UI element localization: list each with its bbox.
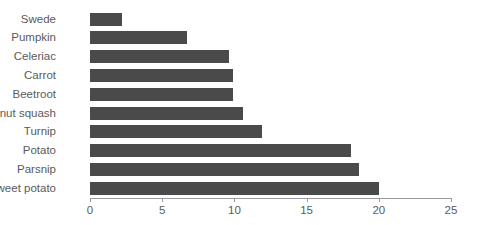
x-axis-tick-label: 15: [287, 203, 327, 218]
x-axis-tick-mark: [234, 198, 235, 202]
x-axis-tick-label: 25: [431, 203, 471, 218]
x-axis-tick-mark: [307, 198, 308, 202]
category-label: Butternut squash: [0, 105, 56, 122]
bar: [90, 69, 233, 82]
bar: [90, 31, 187, 44]
bar: [90, 163, 359, 176]
bar: [90, 50, 229, 63]
bar-row: Carrot: [90, 66, 451, 85]
category-label: Sweet potato: [0, 180, 56, 197]
x-axis-tick-mark: [90, 198, 91, 202]
x-axis-line: [90, 198, 451, 199]
x-axis-tick-mark: [451, 198, 452, 202]
bar-row: Sweet potato: [90, 179, 451, 198]
bar-chart: SwedePumpkinCeleriacCarrotBeetrootButter…: [0, 0, 480, 225]
category-label: Beetroot: [0, 86, 56, 103]
bar: [90, 144, 351, 157]
bar: [90, 125, 262, 138]
bar: [90, 107, 243, 120]
bar-row: Swede: [90, 10, 451, 29]
category-label: Celeriac: [0, 48, 56, 65]
category-label: Potato: [0, 142, 56, 159]
bar-row: Parsnip: [90, 160, 451, 179]
x-axis-tick-mark: [162, 198, 163, 202]
bar: [90, 13, 122, 26]
category-label: Pumpkin: [0, 29, 56, 46]
category-label: Swede: [0, 11, 56, 28]
x-axis-tick-label: 10: [214, 203, 254, 218]
x-axis-tick-label: 5: [142, 203, 182, 218]
bar-row: Potato: [90, 142, 451, 161]
category-label: Carrot: [0, 67, 56, 84]
chart-title-remnant: [0, 0, 480, 6]
x-axis-tick-label: 20: [359, 203, 399, 218]
bar-row: Butternut squash: [90, 104, 451, 123]
x-axis-tick-label: 0: [70, 203, 110, 218]
bar-row: Turnip: [90, 123, 451, 142]
bar-row: Pumpkin: [90, 29, 451, 48]
bar: [90, 182, 379, 195]
category-label: Turnip: [0, 123, 56, 140]
bar-row: Celeriac: [90, 48, 451, 67]
bar-row: Beetroot: [90, 85, 451, 104]
x-axis-tick-mark: [379, 198, 380, 202]
category-label: Parsnip: [0, 161, 56, 178]
bar: [90, 88, 233, 101]
plot-area: SwedePumpkinCeleriacCarrotBeetrootButter…: [90, 10, 451, 198]
